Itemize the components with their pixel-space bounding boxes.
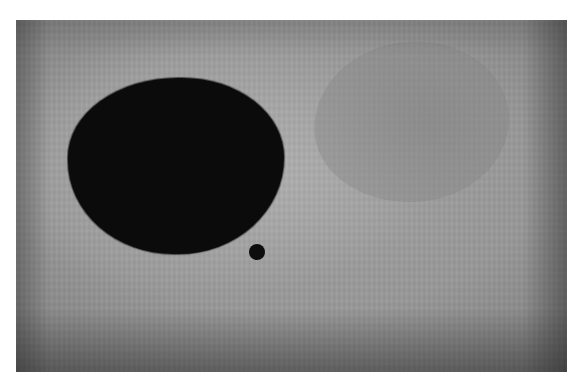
painting-canvas (16, 20, 567, 372)
dark-oval-shape (68, 78, 284, 254)
small-dot (249, 244, 265, 260)
ghost-circle (307, 33, 515, 210)
